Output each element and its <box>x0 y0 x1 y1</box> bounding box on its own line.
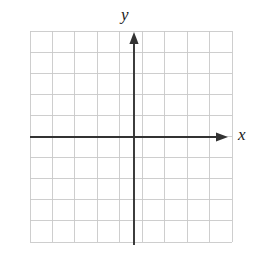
coordinate-plane-svg <box>0 0 258 255</box>
figure-background <box>0 0 258 255</box>
coordinate-grid-figure: y x <box>0 0 258 255</box>
y-axis-label: y <box>121 6 129 23</box>
x-axis-label: x <box>238 126 246 143</box>
